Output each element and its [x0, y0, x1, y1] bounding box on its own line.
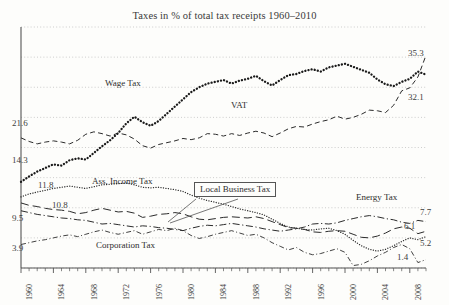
series-label-energy-tax: Energy Tax [356, 192, 397, 202]
x-axis-tick-label: 1996 [317, 284, 326, 300]
start-label-vat: 21.6 [12, 118, 28, 128]
start-label-local-business-tax: 10.8 [52, 200, 68, 210]
end-label-wage-tax: 32.1 [408, 92, 424, 102]
start-label-ass-income-tax: 11.8 [38, 180, 53, 190]
x-axis-tick-label: 1988 [252, 284, 261, 300]
series-line [21, 55, 426, 148]
x-axis-tick-label: 2008 [414, 284, 423, 300]
end-label-vat: 35.3 [408, 48, 424, 58]
series-label-ass-income-tax: Ass. Income Tax [92, 176, 152, 186]
callout-local-business-tax: Local Business Tax [194, 182, 276, 197]
series-line [21, 64, 426, 182]
series-lines [21, 55, 426, 265]
series-line [21, 211, 426, 231]
x-axis-tick-label: 1968 [90, 284, 99, 300]
start-label-energy-tax: 9.5 [12, 213, 23, 223]
end-label-energy-tax: 7.7 [420, 207, 431, 217]
x-axis-tick-label: 2000 [349, 284, 358, 300]
x-axis-tick-label: 1972 [122, 284, 131, 300]
x-axis-tick-label: 2004 [381, 284, 390, 300]
end-label-ass-income-tax: 5.2 [420, 238, 431, 248]
end-label-corporation-tax: 1.4 [397, 252, 408, 262]
series-label-wage-tax: Wage Tax [105, 78, 141, 88]
x-axis-tick-label: 1984 [219, 284, 228, 300]
series-line [21, 203, 426, 238]
chart-figure: Taxes in % of total tax receipts 1960–20… [0, 0, 449, 305]
start-label-wage-tax: 14.3 [12, 155, 28, 165]
x-axis-ticks [21, 268, 426, 273]
x-axis-tick-label: 1964 [57, 284, 66, 300]
x-axis-tick-label: 1960 [25, 284, 34, 300]
end-label-local-business-tax: 6.1 [404, 221, 415, 231]
chart-canvas [0, 0, 449, 305]
x-axis-tick-label: 1992 [284, 284, 293, 300]
start-label-corporation-tax: 3.9 [12, 243, 23, 253]
series-label-corporation-tax: Corporation Tax [96, 240, 155, 250]
gridlines [21, 27, 426, 268]
series-line [21, 228, 426, 265]
x-axis-tick-label: 1976 [155, 284, 164, 300]
x-axis-tick-label: 1980 [187, 284, 196, 300]
series-label-vat: VAT [231, 100, 247, 110]
